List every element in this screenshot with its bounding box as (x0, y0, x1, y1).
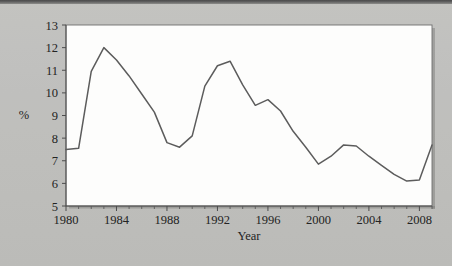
x-tick-label-2000: 2000 (306, 213, 331, 227)
y-tick-label-10: 10 (46, 86, 59, 100)
plot-shadow-right (432, 28, 435, 209)
x-tick-label-2004: 2004 (356, 213, 382, 227)
chart-figure: 5678910111213 19801984198819921996200020… (0, 0, 452, 266)
x-tick-label-1980: 1980 (54, 213, 79, 227)
y-tick-label-13: 13 (46, 19, 59, 33)
y-tick-label-5: 5 (52, 200, 58, 214)
x-tick-label-1984: 1984 (104, 213, 130, 227)
x-axis-title: Year (237, 229, 261, 243)
y-axis-title: % (19, 108, 29, 122)
y-axis-ticks (62, 25, 66, 206)
plot-area-background (66, 25, 432, 206)
x-tick-label-1992: 1992 (205, 213, 230, 227)
y-tick-label-8: 8 (52, 132, 58, 146)
x-axis-tick-labels: 19801984198819921996200020042008 (54, 213, 432, 227)
y-tick-label-6: 6 (52, 177, 58, 191)
y-tick-label-12: 12 (46, 41, 59, 55)
y-tick-label-7: 7 (52, 154, 58, 168)
y-tick-label-9: 9 (52, 109, 58, 123)
y-axis-tick-labels: 5678910111213 (46, 19, 59, 214)
x-tick-label-1996: 1996 (255, 213, 280, 227)
x-tick-label-1988: 1988 (154, 213, 179, 227)
line-chart: 5678910111213 19801984198819921996200020… (0, 0, 452, 266)
x-tick-label-2008: 2008 (407, 213, 432, 227)
y-tick-label-11: 11 (46, 64, 58, 78)
